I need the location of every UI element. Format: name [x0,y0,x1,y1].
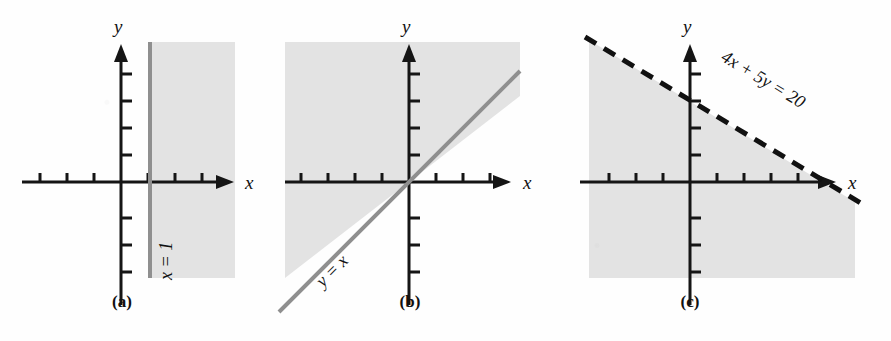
panel-c-caption: (c) [660,292,720,312]
linear-inequality-figure: x y x = 1 x y y = x [0,0,891,341]
panel-a-x-axis-label: x [244,172,254,193]
panel-a-equation-label: x = 1 [156,242,176,281]
panel-c-y-axis-arrowhead [683,44,697,62]
panel-b: x y y = x [285,0,585,341]
panel-c-shaded-region [589,40,855,278]
panel-b-shaded-region [285,42,520,278]
panel-a: x y x = 1 [0,0,290,341]
panel-a-y-axis-label: y [112,16,123,37]
panel-c-x-axis-label: x [847,172,857,193]
panel-c-equation-label: 4x + 5y = 20 [718,46,809,112]
panel-a-caption: (a) [92,292,152,312]
panel-b-caption: (b) [380,292,440,312]
panel-b-x-axis-label: x [522,172,532,193]
panel-b-equation-label: y = x [310,250,352,292]
panel-b-y-axis-label: y [400,16,411,37]
panel-b-x-axis-arrowhead [493,175,511,189]
panel-c: x y 4x + 5y = 20 [580,0,891,341]
panel-c-y-axis-label: y [681,16,692,37]
panel-a-y-axis-arrowhead [114,44,128,62]
